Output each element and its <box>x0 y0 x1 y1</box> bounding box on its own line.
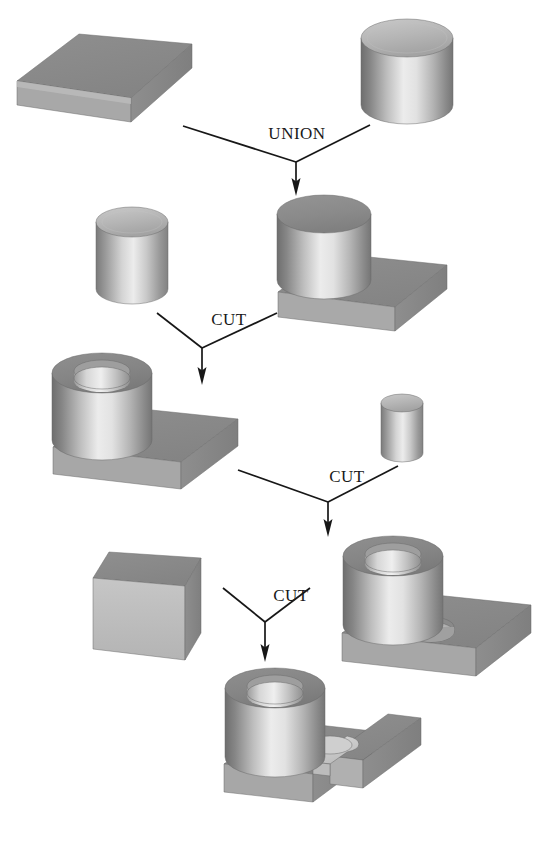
shape-rectangular-block <box>17 34 192 122</box>
operator-label-union-1: UNION <box>268 124 325 143</box>
shape-block-with-bored-boss <box>52 353 238 489</box>
shape-final-part <box>224 668 421 802</box>
shape-large-cylinder <box>361 19 453 124</box>
csg-construction-figure: UNION CUT <box>0 0 557 843</box>
csg-scene: UNION CUT <box>0 0 557 843</box>
operator-label-cut-2: CUT <box>329 467 365 486</box>
shape-block-with-two-holes <box>342 536 531 676</box>
operator-label-cut-3: CUT <box>273 586 309 605</box>
operator-cut-1: CUT <box>157 310 277 385</box>
shape-block-with-boss <box>277 195 447 331</box>
operator-label-cut-1: CUT <box>211 310 247 329</box>
shape-cutting-block <box>93 552 201 660</box>
operator-union-1: UNION <box>183 124 370 196</box>
shape-cutting-cylinder-small <box>381 394 423 462</box>
operator-cut-3: CUT <box>223 586 310 662</box>
operator-cut-2: CUT <box>238 466 398 537</box>
shape-cutting-cylinder-large <box>96 207 168 304</box>
